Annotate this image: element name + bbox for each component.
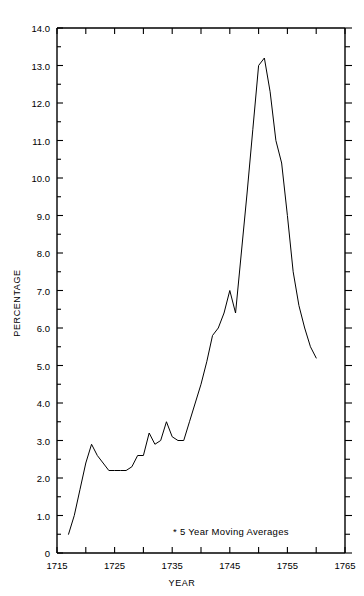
y-tick-label: 14.0 [8, 23, 50, 34]
x-tick-label: 1755 [277, 560, 298, 571]
y-tick-label: 2.0 [8, 473, 50, 484]
y-tick-label: 1.0 [8, 510, 50, 521]
y-axis-ticks-right [345, 28, 352, 553]
y-tick-label: 4.0 [8, 398, 50, 409]
moving-average-note: * 5 Year Moving Averages [173, 526, 289, 537]
x-tick-label: 1745 [219, 560, 240, 571]
x-axis-ticks-top [57, 28, 345, 34]
x-axis-title: YEAR [0, 578, 364, 588]
x-tick-label: 1735 [162, 560, 183, 571]
y-tick-label: 12.0 [8, 98, 50, 109]
x-axis-ticks-bottom [57, 547, 345, 553]
chart-page: 01.02.03.04.05.06.07.08.09.010.011.012.0… [0, 0, 364, 596]
x-tick-label: 1765 [334, 560, 355, 571]
y-tick-label: 5.0 [8, 360, 50, 371]
y-tick-label: 11.0 [8, 135, 50, 146]
percentage-line-chart [0, 0, 364, 596]
y-tick-label: 9.0 [8, 210, 50, 221]
y-axis-ticks-left [57, 28, 63, 553]
y-axis-title: PERCENTAGE [12, 248, 22, 358]
percentage-data-line [69, 58, 317, 534]
y-tick-label: 3.0 [8, 435, 50, 446]
plot-frame [57, 28, 345, 553]
x-tick-label: 1715 [46, 560, 67, 571]
x-tick-label: 1725 [104, 560, 125, 571]
y-tick-label: 0 [8, 548, 50, 559]
y-tick-label: 13.0 [8, 60, 50, 71]
y-tick-label: 10.0 [8, 173, 50, 184]
